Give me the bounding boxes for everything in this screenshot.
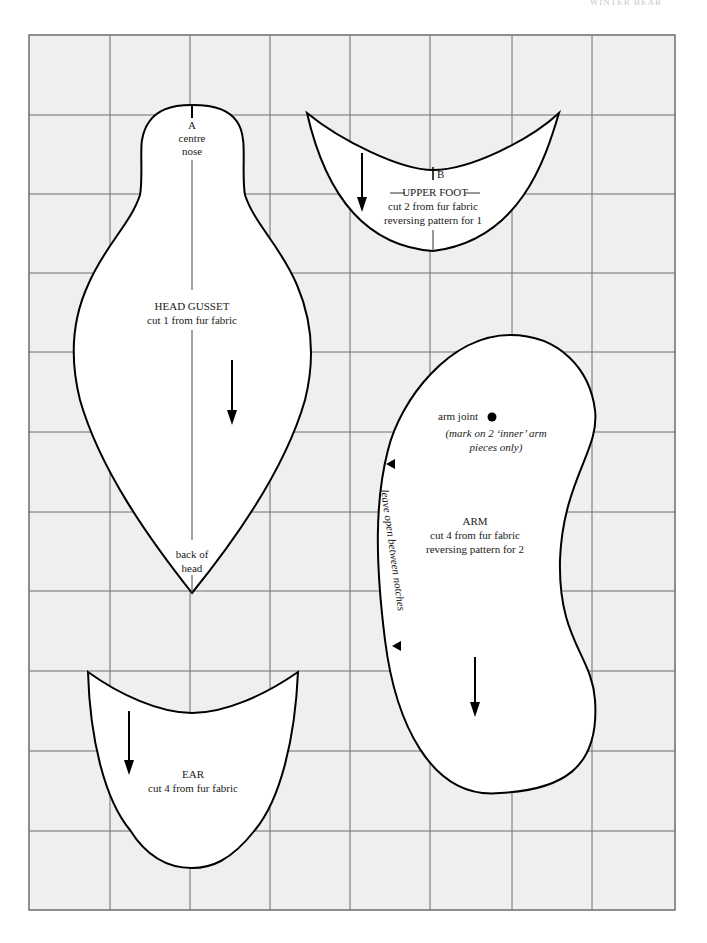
foot-marker-b: B bbox=[437, 168, 444, 180]
head-top-note-2: nose bbox=[182, 145, 202, 157]
arm-joint-marker bbox=[488, 413, 497, 422]
head-marker-a: A bbox=[188, 119, 196, 131]
upper-foot-instruction-1: cut 2 from fur fabric bbox=[388, 200, 478, 212]
head-gusset-instruction: cut 1 from fur fabric bbox=[147, 314, 237, 326]
head-top-note-1: centre bbox=[179, 132, 206, 144]
upper-foot-title: UPPER FOOT bbox=[402, 186, 468, 198]
ear-instruction: cut 4 from fur fabric bbox=[148, 782, 238, 794]
upper-foot-instruction-2: reversing pattern for 1 bbox=[384, 214, 482, 226]
pattern-sheet: A centre nose HEAD GUSSET cut 1 from fur… bbox=[0, 0, 707, 943]
arm-title: ARM bbox=[462, 515, 487, 527]
ear-title: EAR bbox=[182, 768, 205, 780]
arm-joint-label: arm joint bbox=[438, 410, 478, 422]
head-bottom-note-1: back of bbox=[176, 548, 209, 560]
arm-joint-note-2: pieces only) bbox=[469, 441, 523, 454]
arm-joint-note-1: (mark on 2 ‘inner’ arm bbox=[445, 427, 546, 440]
arm-instruction-2: reversing pattern for 2 bbox=[426, 543, 524, 555]
head-gusset-title: HEAD GUSSET bbox=[155, 300, 230, 312]
arm-instruction-1: cut 4 from fur fabric bbox=[430, 529, 520, 541]
head-bottom-note-2: head bbox=[182, 562, 203, 574]
